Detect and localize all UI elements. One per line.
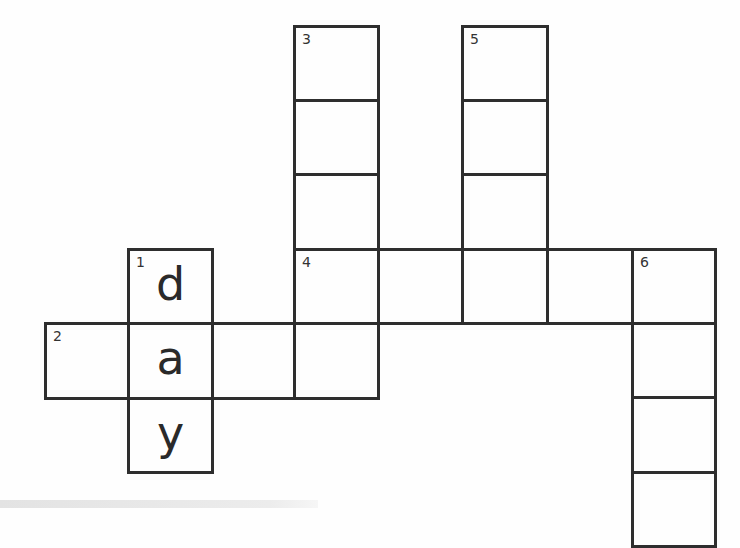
crossword-cell-c-5-2[interactable] [461,99,549,176]
clue-number: 4 [302,255,311,269]
clue-number: 6 [640,255,649,269]
crossword-cell-c-6-4[interactable] [631,471,717,548]
crossword-cell-c-2-2[interactable]: a [127,322,214,400]
crossword-cell-c-2-3[interactable] [211,322,296,400]
cell-letter: a [130,333,211,383]
crossword-cell-c-4-1[interactable]: 4 [293,248,380,325]
page-edge-shadow [0,500,318,508]
crossword-cell-c-2-4[interactable] [293,322,380,400]
crossword-cell-c-6-2[interactable] [631,322,717,399]
crossword-cell-c-5-3[interactable] [461,173,549,251]
crossword-cell-c-6-1[interactable]: 6 [631,248,717,325]
crossword-cell-c-6-3[interactable] [631,396,717,474]
clue-number: 2 [53,329,62,343]
crossword-cell-c-5-1[interactable]: 5 [461,25,549,102]
clue-number: 5 [470,32,479,46]
crossword-cell-c-3-1[interactable]: 3 [293,25,380,102]
crossword-cell-c-3-3[interactable] [293,173,380,251]
crossword-cell-c-1-1[interactable]: 1d [127,248,214,325]
crossword-cell-c-2-1[interactable]: 2 [44,322,130,400]
crossword-cell-c-4-4[interactable] [546,248,634,325]
crossword-cell-c-4-3[interactable] [461,248,549,325]
cell-letter: d [130,259,211,309]
cell-letter: y [130,408,211,458]
crossword-cell-c-4-2[interactable] [377,248,464,325]
crossword-cell-c-3-2[interactable] [293,99,380,176]
clue-number: 3 [302,32,311,46]
crossword-cell-c-1-3[interactable]: y [127,397,214,474]
